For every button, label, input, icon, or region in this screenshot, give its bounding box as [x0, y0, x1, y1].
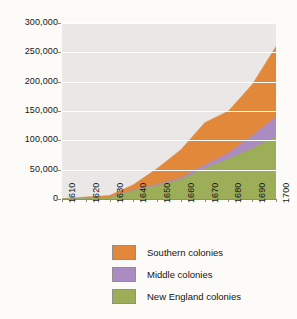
gridline — [62, 170, 276, 171]
legend-label-middle: Middle colonies — [147, 269, 212, 281]
y-axis-tick-mark — [58, 199, 61, 200]
legend-item-southern[interactable]: Southern colonies — [112, 243, 292, 262]
legend-item-new-england[interactable]: New England colonies — [112, 287, 292, 306]
gridline — [62, 52, 276, 53]
legend-swatch-middle — [112, 267, 136, 282]
x-axis-tick-mark — [276, 199, 277, 202]
x-axis-tick-label: 1650 — [162, 192, 173, 203]
x-axis-tick-label: 1620 — [91, 192, 102, 203]
x-axis-tick-label: 1630 — [115, 192, 126, 203]
population-area-chart: 050,000100,000150,000200,000250,000300,0… — [0, 0, 297, 319]
x-axis-tick-mark — [252, 199, 253, 202]
legend-swatch-southern — [112, 245, 136, 260]
y-axis-tick-label: 50,000 — [4, 165, 58, 174]
x-axis-tick-mark — [133, 199, 134, 202]
legend-label-new-england: New England colonies — [147, 291, 241, 303]
y-axis-tick-mark — [58, 111, 61, 112]
y-axis-tick-mark — [58, 52, 61, 53]
x-axis-tick-label: 1640 — [138, 192, 149, 203]
x-axis-tick-mark — [228, 199, 229, 202]
x-axis-tick-label: 1610 — [67, 192, 78, 203]
y-axis-tick-label: 200,000 — [4, 77, 58, 86]
gridline — [62, 111, 276, 112]
y-axis-tick-label: 100,000 — [4, 135, 58, 144]
y-axis: 050,000100,000150,000200,000250,000300,0… — [0, 0, 58, 319]
legend-swatch-new-england — [112, 289, 136, 304]
legend-item-middle[interactable]: Middle colonies — [112, 265, 292, 284]
chart-legend: Southern colonies Middle colonies New En… — [112, 243, 292, 309]
y-axis-tick-mark — [58, 170, 61, 171]
x-axis-tick-label: 1690 — [257, 192, 268, 203]
plot-area — [62, 23, 276, 199]
gridline — [62, 23, 276, 24]
x-axis-tick-mark — [157, 199, 158, 202]
y-axis-tick-label: 150,000 — [4, 106, 58, 115]
x-axis-tick-mark — [181, 199, 182, 202]
x-axis-tick-mark — [110, 199, 111, 202]
y-axis-tick-mark — [58, 23, 61, 24]
y-axis-tick-mark — [58, 140, 61, 141]
x-axis-tick-label: 1670 — [210, 192, 221, 203]
y-axis-tick-label: 250,000 — [4, 47, 58, 56]
legend-label-southern: Southern colonies — [147, 247, 223, 259]
x-axis-tick-label: 1700 — [281, 192, 292, 203]
x-axis-tick-mark — [62, 199, 63, 202]
gridline — [62, 82, 276, 83]
y-axis-tick-label: 300,000 — [4, 18, 58, 27]
gridline — [62, 140, 276, 141]
x-axis-tick-mark — [86, 199, 87, 202]
y-axis-tick-label: 0 — [4, 194, 58, 203]
x-axis-tick-label: 1660 — [186, 192, 197, 203]
x-axis-tick-label: 1680 — [233, 192, 244, 203]
y-axis-tick-mark — [58, 82, 61, 83]
x-axis-tick-mark — [205, 199, 206, 202]
